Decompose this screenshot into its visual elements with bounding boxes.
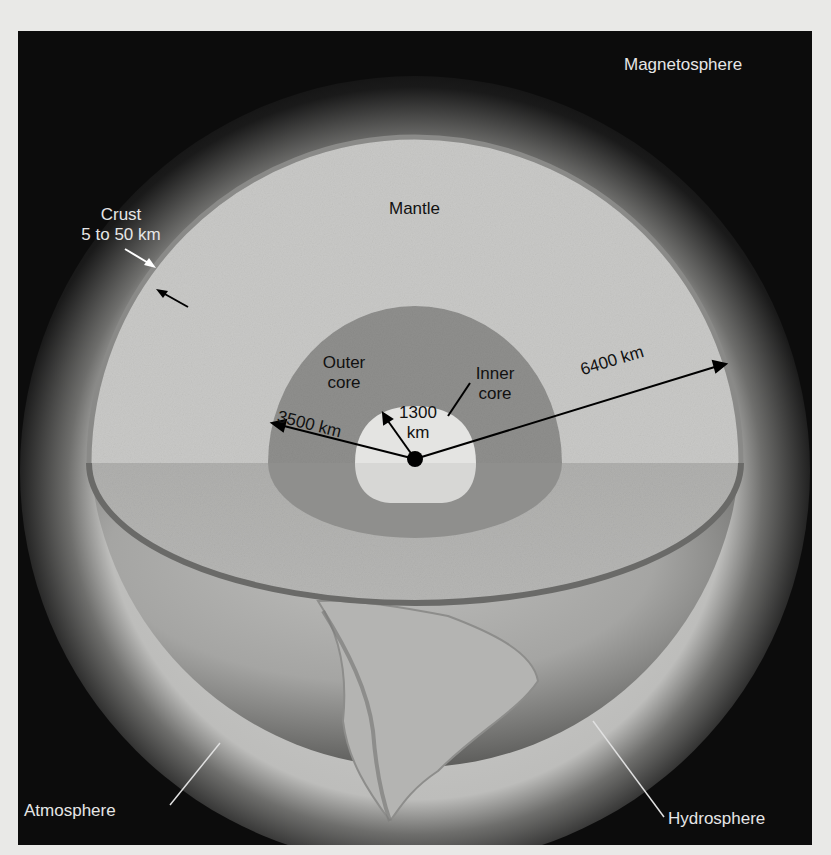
label-inner-core-line2: core xyxy=(470,384,520,404)
label-outer-core-line2: core xyxy=(314,373,374,393)
label-crust-range: 5 to 50 km xyxy=(66,225,176,245)
label-mantle: Mantle xyxy=(389,199,440,219)
label-radius-inner-value: 1300 xyxy=(396,403,440,423)
label-magnetosphere: Magnetosphere xyxy=(624,55,742,75)
label-hydrosphere: Hydrosphere xyxy=(668,809,765,829)
label-inner-core: Inner core xyxy=(470,364,520,404)
label-inner-core-line1: Inner xyxy=(470,364,520,384)
label-inner-core-radius: 1300 km xyxy=(396,403,440,443)
label-crust-title: Crust xyxy=(66,205,176,225)
inner-core-plane xyxy=(355,463,476,503)
label-outer-core: Outer core xyxy=(314,353,374,393)
label-crust: Crust 5 to 50 km xyxy=(66,205,176,245)
earth-layers-diagram: Magnetosphere Crust 5 to 50 km Mantle Ou… xyxy=(18,31,812,845)
label-atmosphere: Atmosphere xyxy=(24,801,116,821)
label-outer-core-line1: Outer xyxy=(314,353,374,373)
label-radius-inner-unit: km xyxy=(396,423,440,443)
